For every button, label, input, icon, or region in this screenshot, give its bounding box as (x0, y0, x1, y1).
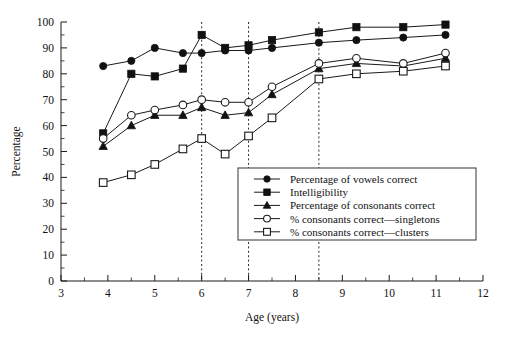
data-point-filled-circle (128, 57, 135, 64)
x-tick-label: 4 (105, 287, 111, 299)
y-tick-label: 40 (43, 171, 55, 183)
legend-label: % consonants correct—clusters (290, 226, 429, 238)
data-point-open-square (179, 145, 187, 153)
legend-label: Intelligibility (290, 186, 349, 198)
data-point-open-circle (268, 83, 276, 91)
x-axis-title: Age (years) (245, 311, 299, 324)
legend: Percentage of vowels correctIntelligibil… (238, 168, 476, 240)
y-tick-label: 10 (43, 249, 55, 261)
x-tick-label: 8 (293, 287, 299, 299)
y-tick-label: 100 (37, 16, 55, 28)
data-point-filled-circle (264, 176, 270, 182)
y-tick-label: 70 (43, 94, 55, 106)
x-tick-label: 5 (152, 287, 158, 299)
data-point-open-square (99, 179, 107, 187)
y-axis-title: Percentage (10, 126, 23, 176)
data-point-filled-triangle (197, 103, 205, 111)
data-point-open-square (264, 228, 271, 235)
data-point-open-square (442, 62, 450, 70)
data-point-filled-circle (268, 44, 275, 51)
data-point-filled-circle (179, 49, 186, 56)
series-markers (99, 21, 450, 186)
data-point-filled-circle (400, 34, 407, 41)
data-point-filled-square (222, 44, 229, 51)
y-tick-label: 0 (48, 275, 54, 287)
chart-figure: 01020304050607080901003456789101112 Age … (0, 0, 505, 340)
axis-frame (61, 22, 483, 281)
x-tick-label: 11 (431, 287, 442, 299)
legend-label: Percentage of consonants correct (290, 199, 435, 211)
y-tick-label: 90 (43, 42, 55, 54)
tick-labels: 01020304050607080901003456789101112 (37, 16, 489, 299)
data-point-filled-triangle (99, 142, 107, 150)
data-point-filled-circle (353, 37, 360, 44)
data-point-open-circle (198, 96, 206, 104)
data-point-open-circle (442, 49, 450, 57)
data-point-filled-circle (442, 31, 449, 38)
data-point-filled-square (198, 31, 205, 38)
data-point-open-square (151, 161, 159, 169)
y-tick-label: 30 (43, 197, 55, 209)
data-point-filled-square (353, 24, 360, 31)
data-point-filled-triangle (244, 108, 252, 116)
data-point-open-square (221, 150, 229, 158)
data-point-filled-square (245, 42, 252, 49)
y-tick-label: 20 (43, 223, 55, 235)
data-point-open-circle (179, 101, 187, 109)
y-tick-label: 50 (43, 146, 55, 158)
data-point-filled-square (400, 24, 407, 31)
x-tick-label: 12 (477, 287, 489, 299)
data-point-filled-square (442, 21, 449, 28)
data-point-filled-triangle (127, 121, 135, 129)
data-point-filled-square (264, 189, 270, 195)
series-markers-2 (99, 54, 450, 150)
x-tick-label: 3 (58, 287, 64, 299)
data-point-filled-circle (151, 44, 158, 51)
data-point-filled-circle (100, 62, 107, 69)
data-point-open-circle (99, 135, 107, 143)
x-tick-label: 10 (383, 287, 395, 299)
data-point-open-square (198, 135, 206, 143)
data-point-filled-triangle (179, 111, 187, 119)
y-tick-label: 80 (43, 68, 55, 80)
data-point-open-square (353, 70, 361, 78)
x-tick-label: 6 (199, 287, 205, 299)
data-point-open-circle (128, 111, 136, 119)
data-point-open-square (399, 67, 407, 75)
data-point-open-circle (315, 60, 323, 68)
data-point-open-circle (245, 98, 253, 106)
data-point-open-circle (353, 54, 361, 62)
line-chart: 01020304050607080901003456789101112 Age … (0, 0, 505, 340)
data-point-open-circle (151, 106, 159, 114)
data-point-open-circle (399, 60, 407, 68)
data-point-open-square (315, 75, 323, 83)
data-point-filled-square (151, 73, 158, 80)
data-point-open-circle (221, 98, 229, 106)
data-point-filled-triangle (268, 90, 276, 98)
data-point-filled-square (315, 29, 322, 36)
x-tick-label: 7 (246, 287, 252, 299)
x-tick-label: 9 (339, 287, 345, 299)
data-point-filled-circle (198, 49, 205, 56)
data-point-filled-square (128, 70, 135, 77)
data-point-filled-circle (315, 39, 322, 46)
y-tick-label: 60 (43, 120, 55, 132)
axes (61, 22, 483, 281)
legend-label: Percentage of vowels correct (290, 173, 417, 185)
data-point-filled-square (268, 37, 275, 44)
data-point-open-circle (264, 215, 271, 222)
data-point-open-square (268, 114, 276, 122)
tick-marks (61, 22, 483, 281)
data-point-open-square (245, 132, 253, 140)
reference-lines (202, 22, 319, 281)
data-point-filled-square (179, 65, 186, 72)
legend-label: % consonants correct—singletons (290, 213, 440, 225)
data-point-open-square (128, 171, 136, 179)
